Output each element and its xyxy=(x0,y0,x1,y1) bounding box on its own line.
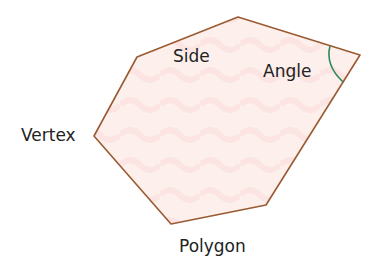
side-label: Side xyxy=(173,48,210,65)
polygon-shape xyxy=(94,17,360,224)
vertex-label: Vertex xyxy=(21,127,76,144)
polygon-diagram: Side Angle Vertex Polygon xyxy=(0,0,373,270)
polygon-title: Polygon xyxy=(179,238,246,255)
angle-label: Angle xyxy=(263,63,311,80)
